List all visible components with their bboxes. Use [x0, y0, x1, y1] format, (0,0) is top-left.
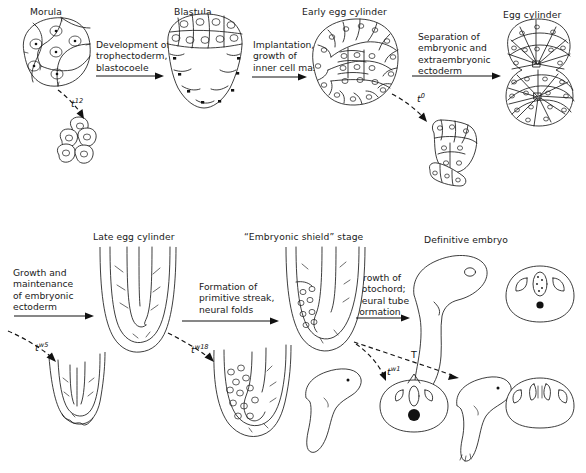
drawing-late-egg-cylinder	[100, 247, 176, 352]
dashed-arrow-tw18	[168, 333, 214, 362]
arrow-blastula-to-early-egg-cylinder	[252, 74, 307, 81]
dashed-arrow-tw1	[356, 344, 386, 381]
drawing-tw1-arrested-lateral	[306, 369, 362, 453]
dashed-arrow-t0	[392, 94, 427, 122]
embryology-diagram	[0, 0, 586, 473]
drawing-tw1-arrested-section	[380, 374, 448, 432]
arrow-to-definitive-embryo	[356, 315, 410, 322]
dashed-arrow-t12	[58, 90, 84, 119]
drawing-embryonic-shield	[286, 247, 365, 351]
drawing-early-egg-cylinder	[313, 19, 398, 105]
dashed-arrow-tw5	[8, 331, 56, 362]
arrow-to-late-egg-cylinder	[14, 313, 94, 320]
arrow-early-to-egg-cylinder	[412, 73, 501, 80]
drawing-egg-cylinder	[506, 19, 574, 126]
arrow-to-embryonic-shield	[182, 318, 279, 325]
drawing-t12-arrested-cells	[57, 117, 96, 163]
drawing-blastula	[168, 14, 242, 108]
drawing-T-mutant-lateral	[457, 377, 512, 461]
drawing-definitive-embryo-section	[506, 266, 574, 322]
drawing-tw18-arrested	[214, 345, 291, 437]
drawing-morula	[23, 17, 90, 86]
drawing-t0-arrested-embryo	[429, 120, 477, 186]
dashed-arrow-T	[354, 342, 459, 380]
drawing-T-mutant-section	[506, 378, 574, 428]
arrow-morula-to-blastula	[96, 73, 164, 80]
drawing-tw5-arrested	[49, 352, 105, 425]
